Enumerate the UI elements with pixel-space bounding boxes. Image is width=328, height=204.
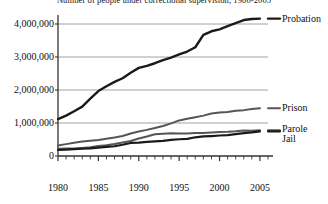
series-line-prison: [58, 108, 260, 145]
chart-figure: Number of people under correctional supe…: [0, 0, 328, 204]
x-axis-tick-label: 1990: [129, 183, 149, 193]
chart-plot-area: [0, 0, 328, 204]
x-axis-tick-label: 1980: [48, 183, 68, 193]
x-axis-tick-label: 2000: [210, 183, 230, 193]
series-line-parole: [58, 130, 260, 149]
x-axis-tick-label: 1995: [169, 183, 189, 193]
series-label-prison: Prison: [282, 103, 308, 113]
series-line-probation: [58, 19, 260, 119]
x-axis-tick-label: 1985: [88, 183, 108, 193]
series-label-jail: Jail: [282, 134, 296, 144]
series-label-probation: Probation: [282, 14, 321, 24]
x-axis-tick-label: 2005: [250, 183, 270, 193]
